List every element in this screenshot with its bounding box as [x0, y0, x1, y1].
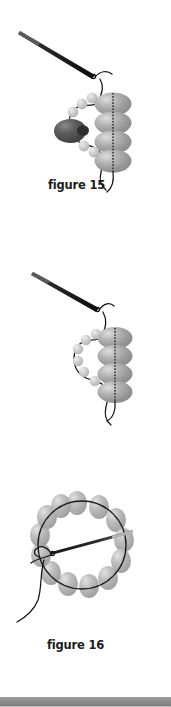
large-bead-column [98, 327, 133, 403]
figures-page: figure 15 [0, 0, 171, 707]
thread-tail [107, 172, 113, 192]
figure-17: figure 17 [0, 440, 171, 670]
figure-17-illustration [0, 440, 171, 670]
figure-15-caption: figure 15 [48, 178, 105, 192]
page-edge-bar [0, 697, 171, 706]
needle-icon [18, 31, 96, 79]
needle-icon [31, 272, 100, 312]
figure-15-illustration [0, 0, 171, 240]
thread-tail [107, 402, 115, 421]
drop-bead [54, 119, 89, 143]
figure-15: figure 15 [0, 0, 171, 240]
small-bead-arc [73, 329, 101, 386]
large-bead-column [95, 93, 132, 174]
figure-16: figure 16 [0, 240, 171, 440]
figure-16-illustration [0, 240, 171, 440]
